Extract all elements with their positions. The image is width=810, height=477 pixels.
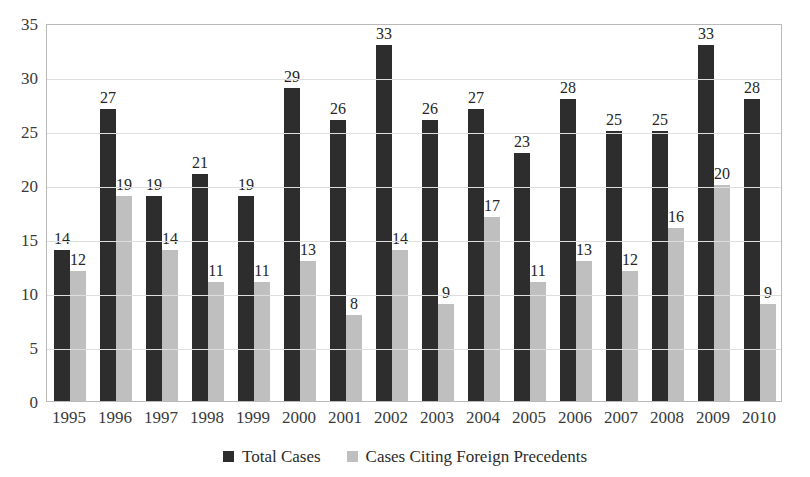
bar-value-label: 14: [380, 231, 420, 247]
bar-value-label: 20: [702, 166, 742, 182]
bar-value-label: 16: [656, 209, 696, 225]
bar: [622, 271, 638, 401]
bar: [376, 45, 392, 401]
x-axis: 1995199619971998199920002001200220032004…: [46, 408, 782, 434]
bar: [70, 271, 86, 401]
bar: [330, 120, 346, 401]
bar-group: 2719: [93, 25, 139, 401]
bar-value-label: 21: [180, 155, 220, 171]
y-axis-tick-label: 30: [21, 70, 38, 87]
y-axis-tick-label: 0: [30, 394, 39, 411]
y-axis: 05101520253035: [0, 0, 44, 477]
bar: [714, 185, 730, 401]
bar-value-label: 29: [272, 69, 312, 85]
bar: [668, 228, 684, 401]
bar: [484, 217, 500, 401]
bar-value-label: 25: [594, 112, 634, 128]
gridline: [47, 349, 781, 350]
bar-value-label: 27: [88, 90, 128, 106]
bar-chart: 05101520253035 1412271919142111191129132…: [0, 0, 810, 477]
bar: [208, 282, 224, 401]
bar-value-label: 13: [288, 242, 328, 258]
bar: [652, 131, 668, 401]
bars-layer: 1412271919142111191129132683314269271723…: [47, 25, 781, 401]
bar-group: 268: [323, 25, 369, 401]
bar: [100, 109, 116, 401]
bar: [192, 174, 208, 401]
legend-item-total-cases: Total Cases: [223, 448, 321, 465]
bar-value-label: 33: [686, 26, 726, 42]
bar-value-label: 26: [410, 101, 450, 117]
bar: [576, 261, 592, 401]
legend-item-foreign-precedents: Cases Citing Foreign Precedents: [347, 448, 587, 465]
bar-value-label: 9: [426, 285, 466, 301]
bar-value-label: 27: [456, 90, 496, 106]
bar-value-label: 11: [196, 263, 236, 279]
bar-value-label: 19: [134, 177, 174, 193]
bar: [530, 282, 546, 401]
bar: [146, 196, 162, 401]
bar: [392, 250, 408, 401]
bar: [238, 196, 254, 401]
bar-value-label: 11: [242, 263, 282, 279]
gridline: [47, 79, 781, 80]
y-axis-tick-label: 20: [21, 178, 38, 195]
bar: [422, 120, 438, 401]
bar: [468, 109, 484, 401]
bar: [254, 282, 270, 401]
bar-value-label: 14: [42, 231, 82, 247]
bar: [346, 315, 362, 401]
y-axis-tick-label: 25: [21, 124, 38, 141]
bar-group: 2512: [599, 25, 645, 401]
bar-group: 289: [737, 25, 783, 401]
bar-value-label: 26: [318, 101, 358, 117]
legend-label-foreign-precedents: Cases Citing Foreign Precedents: [366, 448, 587, 465]
gridline: [47, 133, 781, 134]
bar-value-label: 25: [640, 112, 680, 128]
bar-group: 3314: [369, 25, 415, 401]
bar-group: 1911: [231, 25, 277, 401]
y-axis-tick-label: 5: [30, 340, 39, 357]
x-axis-tick-label: 2010: [731, 408, 787, 428]
bar-value-label: 9: [748, 285, 788, 301]
bar-value-label: 23: [502, 134, 542, 150]
bar-value-label: 33: [364, 26, 404, 42]
gridline: [47, 187, 781, 188]
bar-group: 2311: [507, 25, 553, 401]
legend-label-total-cases: Total Cases: [242, 448, 321, 465]
bar-value-label: 12: [58, 252, 98, 268]
legend-swatch-icon-total-cases: [223, 451, 234, 462]
bar: [300, 261, 316, 401]
bar: [760, 304, 776, 401]
bar: [54, 250, 70, 401]
bar: [116, 196, 132, 401]
bar-value-label: 12: [610, 252, 650, 268]
bar-value-label: 19: [226, 177, 266, 193]
bar-group: 3320: [691, 25, 737, 401]
gridline: [47, 241, 781, 242]
bar-value-label: 17: [472, 198, 512, 214]
bar-group: 2516: [645, 25, 691, 401]
bar-value-label: 8: [334, 296, 374, 312]
bar-value-label: 28: [732, 80, 772, 96]
bar-value-label: 14: [150, 231, 190, 247]
bar-value-label: 13: [564, 242, 604, 258]
bar: [744, 99, 760, 401]
bar: [698, 45, 714, 401]
bar-group: 1412: [47, 25, 93, 401]
gridline: [47, 295, 781, 296]
y-axis-tick-label: 15: [21, 232, 38, 249]
bar-group: 2111: [185, 25, 231, 401]
y-axis-tick-label: 10: [21, 286, 38, 303]
bar-value-label: 11: [518, 263, 558, 279]
bar-group: 2717: [461, 25, 507, 401]
legend-swatch-icon-foreign-precedents: [347, 451, 358, 462]
bar-group: 2913: [277, 25, 323, 401]
bar-group: 269: [415, 25, 461, 401]
bar-group: 2813: [553, 25, 599, 401]
bar: [162, 250, 178, 401]
bar-value-label: 28: [548, 80, 588, 96]
plot-area: 1412271919142111191129132683314269271723…: [46, 24, 782, 402]
chart-legend: Total Cases Cases Citing Foreign Precede…: [0, 448, 810, 465]
y-axis-tick-label: 35: [21, 16, 38, 33]
